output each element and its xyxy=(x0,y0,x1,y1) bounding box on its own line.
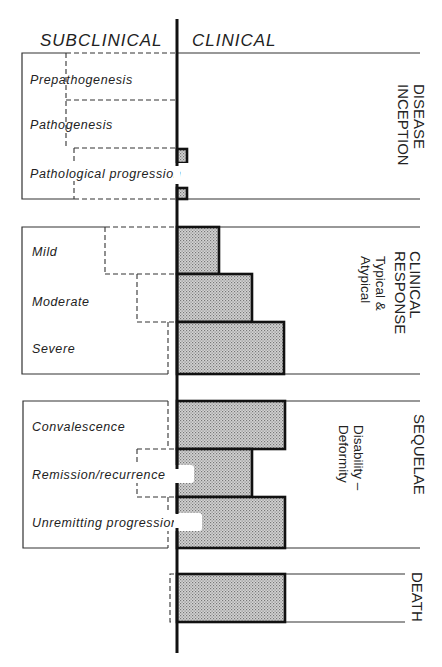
disease-spectrum-diagram: SUBCLINICAL CLINICAL Prepathogenesis Pat… xyxy=(0,0,442,667)
stage-label: Unremitting progression xyxy=(32,516,179,530)
section-death: DEATH xyxy=(170,572,426,622)
stage-label: Severe xyxy=(32,342,75,356)
dashed-bracket xyxy=(170,574,174,622)
svg-text:DISEASE: DISEASE xyxy=(411,84,428,149)
header-clinical: CLINICAL xyxy=(192,31,277,50)
bar-moderate xyxy=(177,274,252,322)
sub-label-disability-deformity: Disability – Deformity xyxy=(336,425,366,491)
svg-text:RESPONSE: RESPONSE xyxy=(392,251,409,334)
axis-gap xyxy=(174,469,180,483)
side-label-clinical-response: CLINICAL RESPONSE xyxy=(392,251,424,334)
axis-gap xyxy=(174,514,180,528)
side-label-death: DEATH xyxy=(409,572,426,622)
section-sequelae: Convalescence Remission/recurrence Unrem… xyxy=(23,401,428,548)
bar-severe xyxy=(177,322,284,374)
svg-text:DEATH: DEATH xyxy=(409,572,426,622)
stage-label: Remission/recurrence xyxy=(32,468,166,482)
sub-label-typical-atypical: Typical & Atypical xyxy=(358,256,388,311)
stage-label: Mild xyxy=(32,245,58,259)
side-label-disease-inception: DISEASE INCEPTION xyxy=(395,84,428,166)
svg-text:SEQUELAE: SEQUELAE xyxy=(411,414,428,495)
bar-death xyxy=(177,574,285,622)
svg-text:Atypical: Atypical xyxy=(358,256,373,303)
stage-label: Pathological progression xyxy=(30,167,181,181)
bar-mild xyxy=(177,227,219,274)
section-clinical-response: Mild Moderate Severe CLINICAL RESPONSE T… xyxy=(22,227,424,374)
stage-label: Moderate xyxy=(32,295,90,309)
bar-convalescence xyxy=(177,401,285,449)
axis-gap xyxy=(174,166,180,184)
svg-text:INCEPTION: INCEPTION xyxy=(395,84,412,166)
side-label-sequelae: SEQUELAE xyxy=(411,414,428,495)
svg-text:Disability –: Disability – xyxy=(351,425,366,491)
section-disease-inception: Prepathogenesis Pathogenesis Pathologica… xyxy=(22,53,428,199)
svg-text:Typical &: Typical & xyxy=(373,256,388,311)
stage-label: Pathogenesis xyxy=(30,118,113,132)
svg-text:Deformity: Deformity xyxy=(336,425,351,483)
header-subclinical: SUBCLINICAL xyxy=(40,31,162,50)
stage-label: Prepathogenesis xyxy=(30,73,133,87)
stage-label: Convalescence xyxy=(32,420,125,434)
